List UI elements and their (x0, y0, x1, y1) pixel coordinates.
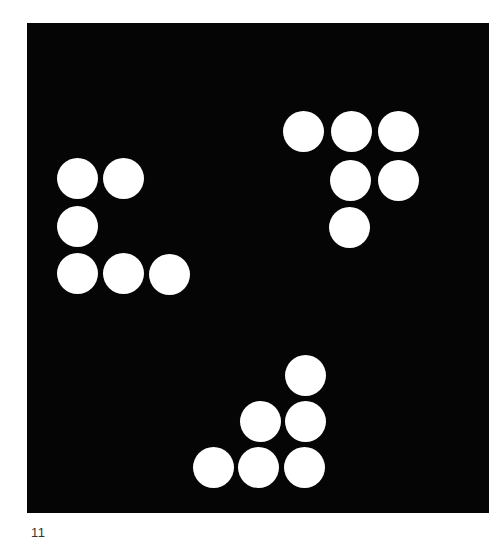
left-group-dot (57, 206, 98, 247)
bottom-group-dot (193, 447, 234, 488)
bottom-group-dot (285, 401, 326, 442)
bottom-group-dot (284, 447, 325, 488)
left-group-dot (103, 158, 144, 199)
top-right-group-dot (283, 111, 324, 152)
left-group-dot (57, 253, 98, 294)
top-right-group-dot (330, 160, 371, 201)
left-group-dot (57, 158, 98, 199)
top-right-group-dot (378, 111, 419, 152)
bottom-group-dot (240, 401, 281, 442)
top-right-group-dot (378, 160, 419, 201)
bottom-group-dot (238, 447, 279, 488)
top-right-group-dot (331, 111, 372, 152)
bottom-group-dot (285, 355, 326, 396)
top-right-group-dot (329, 207, 370, 248)
left-group-dot (149, 254, 190, 295)
figure-caption: 11 (31, 525, 46, 540)
left-group-dot (103, 253, 144, 294)
